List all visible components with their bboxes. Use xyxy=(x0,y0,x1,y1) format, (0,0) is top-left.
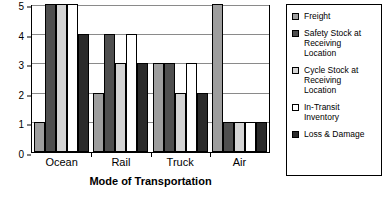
legend-swatch-icon xyxy=(292,13,299,20)
bar xyxy=(115,63,126,152)
bar xyxy=(153,63,164,152)
x-tick-mark xyxy=(210,153,211,157)
legend-label: Freight xyxy=(304,11,330,21)
bar xyxy=(78,34,89,152)
x-tick-label: Truck xyxy=(151,153,210,171)
bar xyxy=(45,4,56,152)
bar xyxy=(56,4,67,152)
y-axis: 012345 xyxy=(4,5,31,153)
legend-swatch-icon xyxy=(292,104,299,111)
bar xyxy=(186,63,197,152)
x-tick-label: Air xyxy=(210,153,269,171)
bar xyxy=(197,93,208,152)
bar xyxy=(34,122,45,152)
plot-panel: 012345 OceanRailTruckAir Mode of Transpo… xyxy=(4,3,270,171)
y-tick-label: 4 xyxy=(18,32,24,42)
bar-group xyxy=(32,6,91,152)
legend-label: Cycle Stock at Receiving Location xyxy=(304,65,358,95)
x-tick-label: Rail xyxy=(91,153,150,171)
x-tick-label: Ocean xyxy=(32,153,91,171)
bar xyxy=(67,4,78,152)
y-tick-label: 1 xyxy=(18,120,24,130)
legend-item: Freight xyxy=(292,11,377,21)
legend-item: Loss & Damage xyxy=(292,129,377,139)
bar xyxy=(256,122,267,152)
y-tick-label: 3 xyxy=(18,61,24,71)
bar xyxy=(137,63,148,152)
x-axis-title: Mode of Transportation xyxy=(31,175,270,187)
legend-swatch-icon xyxy=(292,131,299,138)
legend-item: Cycle Stock at Receiving Location xyxy=(292,65,377,95)
y-tick-mark xyxy=(27,155,31,156)
legend-label: Safety Stock at Receiving Location xyxy=(304,28,361,58)
chart-legend: FreightSafety Stock at Receiving Locatio… xyxy=(286,4,382,176)
bar xyxy=(93,93,104,152)
x-tick-mark xyxy=(151,153,152,157)
bar xyxy=(175,93,186,152)
bar-group xyxy=(151,6,210,152)
y-tick-label: 5 xyxy=(18,2,24,12)
x-tick-mark xyxy=(91,153,92,157)
bar-group xyxy=(210,6,269,152)
bar xyxy=(104,34,115,152)
legend-item: In-Transit Inventory xyxy=(292,102,377,122)
y-tick-label: 2 xyxy=(18,91,24,101)
bar-group xyxy=(91,6,150,152)
bar xyxy=(164,63,175,152)
bar xyxy=(126,34,137,152)
legend-item: Safety Stock at Receiving Location xyxy=(292,28,377,58)
bar xyxy=(234,122,245,152)
bar xyxy=(245,122,256,152)
legend-swatch-icon xyxy=(292,67,299,74)
legend-label: In-Transit Inventory xyxy=(304,102,340,122)
legend-label: Loss & Damage xyxy=(304,129,364,139)
y-tick-label: 0 xyxy=(18,150,24,160)
bar xyxy=(212,4,223,152)
chart-figure: 012345 OceanRailTruckAir Mode of Transpo… xyxy=(0,0,386,206)
legend-swatch-icon xyxy=(292,30,299,37)
bar xyxy=(223,122,234,152)
x-axis-labels: OceanRailTruckAir xyxy=(32,153,269,171)
bars-layer xyxy=(32,6,269,152)
